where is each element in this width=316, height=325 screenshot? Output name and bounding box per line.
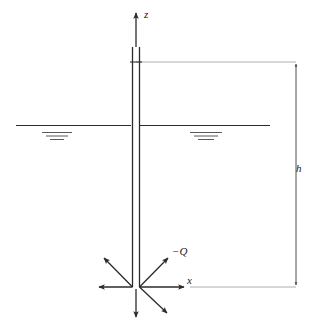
z-axis-label: z <box>144 9 148 20</box>
water-table-right <box>140 126 270 140</box>
x-axis-label: x <box>187 275 192 286</box>
discharge-label: −Q <box>172 246 187 257</box>
diagram-canvas <box>0 0 316 325</box>
dimension-leader-lines <box>136 62 296 287</box>
well-diagram-figure: z x h −Q <box>0 0 316 325</box>
depth-dimension-label: h <box>296 163 302 174</box>
well-casing <box>130 47 142 287</box>
water-table-left <box>16 126 131 140</box>
